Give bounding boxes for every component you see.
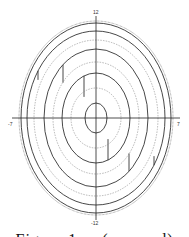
x-min-label: -7: [8, 121, 12, 127]
x-max-label: 7: [177, 121, 180, 127]
figure-caption: Figure 1 ... (cropped): [0, 231, 189, 237]
ellipse-diagram: [0, 0, 189, 237]
y-max-label: 12: [93, 9, 99, 15]
y-min-label: -12: [91, 220, 98, 226]
